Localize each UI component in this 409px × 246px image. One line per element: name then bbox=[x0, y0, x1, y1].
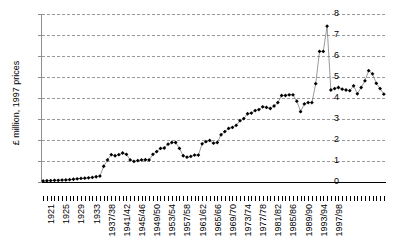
x-axis-tick bbox=[236, 196, 237, 201]
data-point bbox=[200, 142, 204, 146]
x-axis-tick-label: 1937/38 bbox=[108, 204, 117, 237]
x-axis-tick bbox=[365, 196, 366, 201]
x-axis-tick bbox=[248, 196, 249, 201]
x-axis-tick bbox=[210, 196, 211, 201]
data-point bbox=[60, 178, 64, 182]
data-point bbox=[113, 154, 117, 158]
x-axis-tick-label: 1945/46 bbox=[138, 204, 147, 237]
x-axis-tick bbox=[289, 196, 290, 201]
data-point bbox=[79, 177, 83, 181]
x-axis-tick-label: 1949/50 bbox=[153, 204, 162, 237]
x-axis-tick bbox=[346, 196, 347, 201]
x-axis-tick-label: 1977/78 bbox=[259, 204, 268, 237]
x-axis-tick-label: 1925 bbox=[62, 204, 71, 224]
x-axis-tick bbox=[107, 196, 108, 201]
data-point bbox=[72, 177, 76, 181]
x-axis-tick-label: 1957/58 bbox=[183, 204, 192, 237]
x-axis-tick-label: 1969/70 bbox=[229, 204, 238, 237]
data-point bbox=[174, 141, 178, 145]
x-axis-tick bbox=[153, 196, 154, 201]
data-point bbox=[284, 94, 288, 98]
x-axis-tick-label: 1933 bbox=[93, 204, 102, 224]
data-point bbox=[287, 93, 291, 97]
data-point bbox=[193, 153, 197, 157]
data-point bbox=[185, 155, 189, 159]
x-axis-tick-label: 1941/42 bbox=[123, 204, 132, 237]
x-axis-tick bbox=[172, 196, 173, 201]
x-axis-tick bbox=[164, 196, 165, 201]
data-point bbox=[68, 178, 72, 182]
x-axis-tick bbox=[58, 196, 59, 201]
x-axis-tick-label: 1973/74 bbox=[244, 204, 253, 237]
x-axis-tick bbox=[255, 196, 256, 201]
x-axis-tick-label: 1993/94 bbox=[320, 204, 329, 237]
x-axis-tick bbox=[183, 196, 184, 201]
x-axis-tick bbox=[70, 196, 71, 201]
data-point bbox=[253, 109, 257, 113]
data-point bbox=[132, 160, 136, 164]
x-axis-tick-label: 1989/90 bbox=[305, 204, 314, 237]
x-axis-tick bbox=[191, 196, 192, 201]
data-point bbox=[318, 49, 322, 53]
data-point bbox=[359, 86, 363, 90]
x-axis-tick bbox=[240, 196, 241, 201]
x-axis-tick bbox=[145, 196, 146, 201]
x-axis-tick-label: 1965/66 bbox=[214, 204, 223, 237]
x-axis-tick bbox=[270, 196, 271, 201]
data-point bbox=[102, 164, 106, 168]
data-point bbox=[306, 101, 310, 105]
x-axis-tick bbox=[81, 196, 82, 201]
data-point bbox=[325, 24, 329, 28]
data-point bbox=[98, 174, 102, 178]
data-point bbox=[87, 176, 91, 180]
x-axis-tick-label: 1981/82 bbox=[274, 204, 283, 237]
x-axis-tick bbox=[104, 196, 105, 201]
data-point bbox=[302, 102, 306, 106]
y-axis-tick bbox=[38, 182, 42, 183]
x-axis-tick bbox=[198, 196, 199, 201]
x-axis-tick-label: 1985/86 bbox=[289, 204, 298, 237]
data-point bbox=[140, 158, 144, 162]
data-point bbox=[363, 79, 367, 83]
x-axis-tick bbox=[376, 196, 377, 201]
x-axis-tick bbox=[354, 196, 355, 201]
x-axis-tick bbox=[357, 196, 358, 201]
x-axis-tick bbox=[312, 196, 313, 201]
data-point bbox=[170, 141, 174, 145]
x-axis-tick bbox=[130, 196, 131, 201]
data-point bbox=[75, 177, 79, 181]
x-axis-tick bbox=[369, 196, 370, 201]
data-point bbox=[215, 141, 219, 145]
data-point bbox=[340, 87, 344, 91]
data-point bbox=[49, 179, 53, 183]
data-point bbox=[178, 147, 182, 151]
x-axis-tick bbox=[51, 196, 52, 201]
series-plot bbox=[42, 14, 385, 182]
x-axis-tick bbox=[380, 196, 381, 201]
x-axis-tick bbox=[225, 196, 226, 201]
x-axis-tick bbox=[267, 196, 268, 201]
data-point bbox=[295, 99, 299, 103]
x-axis-tick bbox=[92, 196, 93, 201]
x-axis-tick bbox=[217, 196, 218, 201]
data-point bbox=[337, 86, 341, 90]
x-axis-tick bbox=[138, 196, 139, 201]
data-point bbox=[333, 87, 337, 91]
data-point bbox=[204, 140, 208, 144]
x-axis-tick bbox=[301, 196, 302, 201]
x-axis-tick-label: 1997/98 bbox=[335, 204, 344, 237]
chart-container: £ million, 1997 prices 012345678 1921192… bbox=[0, 0, 409, 246]
x-axis-tick-label: 1953/54 bbox=[168, 204, 177, 237]
data-point bbox=[382, 92, 386, 96]
x-axis-tick bbox=[202, 196, 203, 201]
x-axis-tick bbox=[338, 196, 339, 201]
x-axis-tick bbox=[62, 196, 63, 201]
x-axis-tick bbox=[278, 196, 279, 201]
x-axis-tick bbox=[43, 196, 44, 201]
data-point bbox=[310, 101, 314, 105]
data-point bbox=[280, 94, 284, 98]
data-point bbox=[265, 106, 269, 110]
series-line bbox=[43, 26, 384, 181]
data-point bbox=[329, 88, 333, 92]
x-axis-tick bbox=[73, 196, 74, 201]
